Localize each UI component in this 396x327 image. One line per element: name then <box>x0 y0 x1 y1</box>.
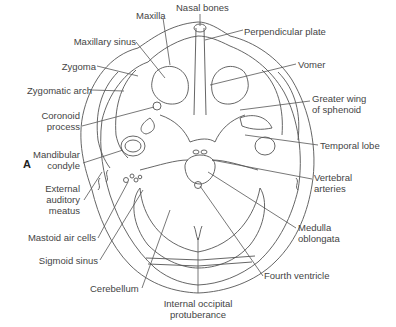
label-mandibular-2: condyle <box>20 160 80 171</box>
label-sigmoid-sinus: Sigmoid sinus <box>20 255 98 266</box>
label-vertebral-1: Vertebral <box>314 172 352 183</box>
medulla-shape <box>185 155 215 184</box>
nasal-septum <box>194 28 206 115</box>
label-medulla-1: Medulla <box>298 222 331 233</box>
label-perpendicular-plate: Perpendicular plate <box>244 26 326 37</box>
label-mastoid-air-cells: Mastoid air cells <box>6 232 96 243</box>
label-mandibular-1: Mandibular <box>20 149 80 160</box>
label-medulla-2: oblongata <box>298 233 340 244</box>
zygomatic-arch-shape <box>97 72 118 168</box>
internal-occipital-protuberance-shape <box>194 226 202 240</box>
coronoid-process-shape <box>153 102 161 110</box>
label-zygoma: Zygoma <box>40 61 96 72</box>
label-cerebellum: Cerebellum <box>90 283 139 294</box>
label-internal-occipital-2: protuberance <box>148 309 248 320</box>
anatomy-diagram: A Nasal bones Maxilla Perpendicular plat… <box>0 0 396 327</box>
label-vertebral-2: arteries <box>314 183 346 194</box>
label-nasal-bones: Nasal bones <box>176 2 229 13</box>
skull-outer-outline <box>81 22 314 293</box>
label-zygomatic-arch: Zygomatic arch <box>10 85 92 96</box>
label-vomer: Vomer <box>298 59 325 70</box>
label-temporal-lobe: Temporal lobe <box>320 140 380 151</box>
label-maxilla: Maxilla <box>136 10 166 21</box>
skull-inner-outline <box>101 36 301 285</box>
maxillary-sinus-left <box>152 66 189 104</box>
label-fourth-ventricle: Fourth ventricle <box>264 270 329 281</box>
label-greater-wing-2: of sphenoid <box>312 104 361 115</box>
fourth-ventricle-shape <box>195 182 202 189</box>
label-maxillary-sinus: Maxillary sinus <box>72 36 136 47</box>
label-internal-occipital-1: Internal occipital <box>148 298 248 309</box>
label-coronoid-1: Coronoid <box>20 110 80 121</box>
maxillary-sinus-right <box>212 66 249 104</box>
label-coronoid-2: process <box>20 121 80 132</box>
label-ext-auditory-1: External <box>20 183 80 194</box>
label-ext-auditory-2: auditory <box>20 194 80 205</box>
label-ext-auditory-3: meatus <box>20 205 80 216</box>
label-greater-wing-1: Greater wing <box>312 93 366 104</box>
